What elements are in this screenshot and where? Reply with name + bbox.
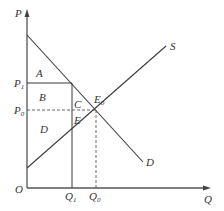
x-axis-arrow-icon (203, 186, 211, 191)
e0-label: E0 (93, 93, 105, 107)
q1-label: Q1 (65, 190, 76, 204)
area-a-label: A (35, 67, 43, 79)
e-label: E (73, 114, 81, 126)
x-axis-label: Q (204, 193, 212, 205)
p0-label: P0 (13, 104, 25, 118)
y-axis-arrow-icon (25, 9, 30, 17)
origin-label: O (15, 183, 23, 195)
area-c-label: C (74, 98, 82, 110)
y-axis-label: P (14, 7, 22, 19)
q0-label: Q0 (89, 190, 101, 204)
supply-demand-diagram: P Q O S D P1 P0 Q1 Q0 E0 E A B C D (0, 0, 224, 211)
p1-label: P1 (13, 77, 24, 91)
demand-label: D (145, 156, 154, 168)
area-d-label: D (39, 123, 48, 135)
area-b-label: B (39, 91, 46, 103)
supply-curve (27, 46, 166, 168)
supply-label: S (170, 40, 176, 52)
